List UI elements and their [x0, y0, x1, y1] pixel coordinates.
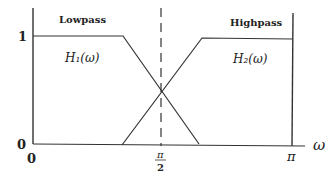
x-tick-half-pi-num: π: [156, 149, 164, 160]
y-tick-zero: 0: [17, 137, 26, 152]
x-tick-half-pi-den: 2: [157, 162, 164, 173]
omega-axis-label: ω: [313, 136, 325, 154]
x-tick-pi: π: [286, 149, 296, 164]
filter-diagram: Lowpass Highpass H₁(ω) H₂(ω) 1 0 0 π 2 π…: [0, 0, 336, 180]
x-tick-zero: 0: [27, 151, 36, 166]
highpass-label: Highpass: [230, 17, 283, 28]
y-tick-one: 1: [18, 29, 27, 44]
lowpass-label: Lowpass: [59, 14, 106, 25]
pi-boundary-line: [292, 13, 293, 146]
x-axis: [33, 144, 305, 146]
h2-label: H₂(ω): [232, 52, 268, 66]
lowpass-curve: [33, 36, 199, 144]
h1-label: H₁(ω): [64, 51, 100, 65]
